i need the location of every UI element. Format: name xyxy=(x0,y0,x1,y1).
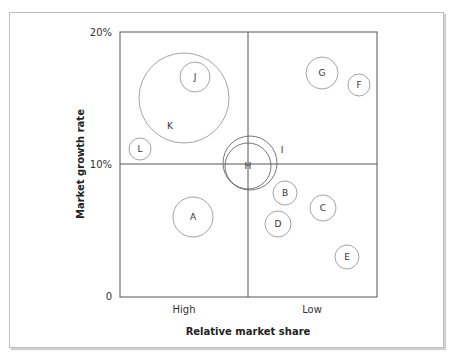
bcg-matrix-chart: 20% 10% 0 High Low Relative market share… xyxy=(0,0,455,358)
bubble-label-c: C xyxy=(320,203,326,213)
bubble-label-k: K xyxy=(167,121,174,131)
x-tick-high: High xyxy=(173,304,196,315)
bubble-label-d: D xyxy=(275,219,282,229)
bubble-label-i: I xyxy=(281,145,284,155)
bubble-label-h: H xyxy=(245,161,252,171)
y-tick-0: 0 xyxy=(106,291,112,302)
bubble-label-e: E xyxy=(344,252,350,262)
bubble-label-f: F xyxy=(356,80,361,90)
bubble-label-a: A xyxy=(190,212,197,222)
bubble-label-l: L xyxy=(137,144,142,154)
y-tick-20: 20% xyxy=(90,27,112,38)
bubble-label-b: B xyxy=(282,188,288,198)
y-axis-title: Market growth rate xyxy=(75,109,86,219)
bubble-label-g: G xyxy=(319,68,326,78)
y-tick-10: 10% xyxy=(90,159,112,170)
bubbles-group: ABCDEFGHIJKL xyxy=(129,53,370,269)
x-axis-title: Relative market share xyxy=(186,326,311,337)
bubble-label-j: J xyxy=(193,72,197,82)
x-tick-low: Low xyxy=(302,304,322,315)
